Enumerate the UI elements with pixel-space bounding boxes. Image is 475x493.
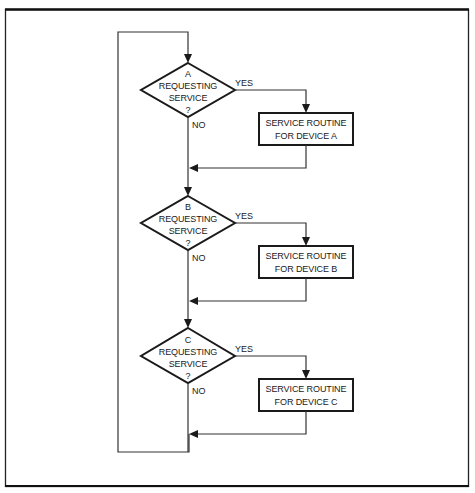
process-c-line1: SERVICE ROUTINE <box>266 384 347 394</box>
arrow-into-decision-c <box>184 319 192 328</box>
decision-c-line1: REQUESTING <box>159 347 218 357</box>
decision-b-line2: SERVICE <box>169 226 208 236</box>
yes-line-a <box>235 90 306 106</box>
block-a: A REQUESTING SERVICE ? YES NO SERVICE RO… <box>141 63 353 196</box>
decision-b-yes-label: YES <box>235 211 253 221</box>
yes-line-c <box>235 356 306 372</box>
decision-b-line1: REQUESTING <box>159 214 218 224</box>
decision-a-letter: A <box>185 69 191 79</box>
decision-b-question: ? <box>186 238 191 248</box>
block-b: B REQUESTING SERVICE ? YES NO SERVICE RO… <box>141 196 353 328</box>
arrow-merge-c <box>189 430 198 438</box>
decision-c-line2: SERVICE <box>169 359 208 369</box>
process-b-line1: SERVICE ROUTINE <box>266 251 347 261</box>
arrow-into-decision-b <box>184 187 192 196</box>
process-c-line2: FOR DEVICE C <box>275 397 338 407</box>
arrow-merge-a <box>189 164 198 172</box>
process-b-line2: FOR DEVICE B <box>275 264 337 274</box>
decision-c-no-label: NO <box>192 386 206 396</box>
decision-a-yes-label: YES <box>235 78 253 88</box>
decision-c-yes-label: YES <box>235 344 253 354</box>
block-c: C REQUESTING SERVICE ? YES NO SERVICE RO… <box>141 328 353 452</box>
flowchart: A REQUESTING SERVICE ? YES NO SERVICE RO… <box>0 0 475 493</box>
process-a-line2: FOR DEVICE A <box>275 131 337 141</box>
decision-a-line1: REQUESTING <box>159 81 218 91</box>
decision-a-line2: SERVICE <box>169 93 208 103</box>
arrow-into-process-b <box>302 237 310 246</box>
arrow-into-process-a <box>302 104 310 113</box>
arrow-merge-b <box>189 297 198 305</box>
return-line-c <box>196 411 306 434</box>
decision-c-question: ? <box>186 371 191 381</box>
process-a-line1: SERVICE ROUTINE <box>266 118 347 128</box>
decision-b-no-label: NO <box>192 253 206 263</box>
decision-a-question: ? <box>186 105 191 115</box>
yes-line-b <box>235 223 306 239</box>
return-line-b <box>196 278 306 301</box>
arrow-into-process-c <box>302 370 310 379</box>
decision-b-letter: B <box>185 202 191 212</box>
decision-a-no-label: NO <box>192 120 206 130</box>
return-line-a <box>196 145 306 168</box>
decision-c-letter: C <box>185 335 192 345</box>
arrow-into-decision-a <box>184 54 192 63</box>
